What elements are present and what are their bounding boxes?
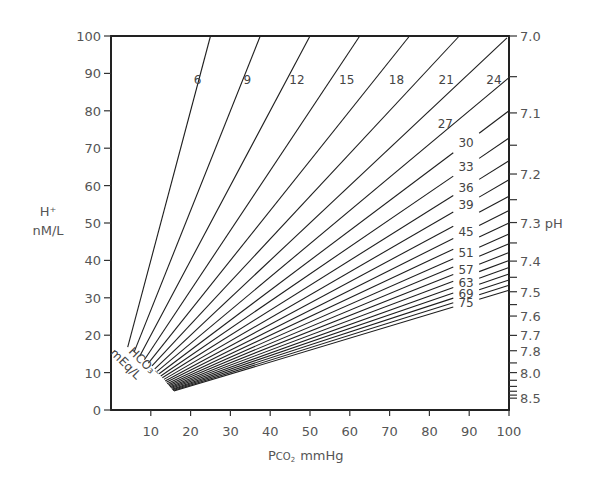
y-axis-h-ion: 0102030405060708090100: [76, 29, 111, 418]
hco3-line-15: [144, 36, 359, 360]
hco3-label-30: 30: [458, 136, 473, 150]
hco3-line-63-end: [479, 268, 509, 279]
x-axis-title-co: CO: [276, 451, 291, 462]
x-tick-label: 90: [461, 424, 478, 439]
y-tick-label: 40: [84, 253, 101, 268]
y-tick-label: 30: [84, 291, 101, 306]
hco3-label-9: 9: [243, 73, 251, 87]
hco3-line-42: [165, 226, 453, 381]
y-axis-title-line1: H⁺: [40, 204, 57, 219]
x-tick-label: 60: [342, 424, 359, 439]
y-tick-label: 10: [84, 366, 101, 381]
hco3-line-33-end: [479, 138, 509, 158]
x-tick-label: 10: [143, 424, 160, 439]
hco3-line-48-end: [479, 223, 509, 237]
hco3-label-33: 33: [458, 160, 473, 174]
hco3-line-39: [164, 212, 453, 379]
ph-tick-label: 7.1: [520, 106, 541, 121]
y-tick-label: 70: [84, 141, 101, 156]
hco3-label-75: 75: [458, 296, 473, 310]
hco3-isopleth-lines: [128, 36, 509, 391]
hco3-line-42-end: [479, 196, 509, 212]
ph-tick-label: 7.8: [520, 344, 541, 359]
hco3-label-15: 15: [339, 73, 354, 87]
hco3-line-72-end: [479, 285, 509, 294]
ph-tick-label: 8.5: [520, 391, 541, 406]
y-tick-label: 50: [84, 216, 101, 231]
y-axis-title-line2: nM/L: [32, 223, 64, 238]
y-axis-ph: 7.07.17.27.3 pH7.47.57.67.77.88.08.5: [509, 29, 563, 406]
x-tick-label: 20: [182, 424, 199, 439]
ph-tick-label: 7.4: [520, 254, 541, 269]
hco3-line-24: [155, 38, 507, 369]
hco3-line-39-end: [479, 180, 509, 197]
y-tick-label: 100: [76, 29, 101, 44]
x-tick-label: 70: [381, 424, 398, 439]
hco3-line-12: [140, 36, 310, 356]
hco3-line-51: [168, 259, 453, 385]
hco3-line-57: [170, 275, 453, 387]
x-axis: 102030405060708090100: [143, 410, 522, 439]
hco3-label-51: 51: [458, 246, 473, 260]
ph-tick-label: 7.7: [520, 328, 541, 343]
hco3-line-18: [148, 36, 409, 363]
ph-tick-label: 7.5: [520, 285, 541, 300]
hco3-label-39: 39: [458, 198, 473, 212]
x-tick-label: 50: [302, 424, 319, 439]
hco3-line-66-end: [479, 274, 509, 284]
hco3-line-45-end: [479, 211, 509, 226]
hco3-label-36: 36: [458, 181, 473, 195]
hco3-label-45: 45: [458, 225, 473, 239]
x-tick-label: 30: [222, 424, 239, 439]
hco3-label-27: 27: [438, 117, 453, 131]
x-tick-label: 100: [497, 424, 522, 439]
acid-base-nomogram: 102030405060708090100 010203040506070809…: [0, 0, 594, 486]
hco3-label-24: 24: [486, 73, 501, 87]
x-axis-title-p: P: [268, 448, 276, 463]
hco3-label-57: 57: [458, 263, 473, 277]
hco3-line-60: [171, 281, 454, 387]
ph-tick-label: 7.0: [520, 29, 541, 44]
x-axis-title: PCO2mmHg: [268, 448, 344, 464]
hco3-line-36-end: [479, 161, 509, 180]
y-tick-label: 0: [93, 403, 101, 418]
hco3-line-75-end: [479, 290, 509, 299]
ph-tick-label: 7.3 pH: [520, 216, 563, 231]
hco3-label-12: 12: [289, 73, 304, 87]
ph-tick-label: 7.2: [520, 167, 541, 182]
hco3-line-66: [172, 293, 453, 389]
hco3-label-21: 21: [439, 73, 454, 87]
x-axis-title-sub2: 2: [291, 456, 295, 464]
hco3-line-63: [171, 287, 453, 388]
y-tick-label: 60: [84, 179, 101, 194]
hco3-line-30-end: [479, 111, 509, 133]
y-tick-label: 90: [84, 66, 101, 81]
hco3-line-labels: 6912151821242730333639455157636975: [194, 73, 502, 310]
hco3-line-69-end: [479, 280, 509, 290]
y-tick-label: 80: [84, 104, 101, 119]
y-tick-label: 20: [84, 328, 101, 343]
hco3-label-18: 18: [389, 73, 404, 87]
ph-tick-label: 8.0: [520, 366, 541, 381]
hco3-label-6: 6: [194, 73, 202, 87]
hco3-line-72: [173, 303, 453, 391]
x-tick-label: 40: [262, 424, 279, 439]
ph-tick-label: 7.6: [520, 309, 541, 324]
x-tick-label: 80: [421, 424, 438, 439]
x-axis-title-unit: mmHg: [300, 448, 343, 463]
